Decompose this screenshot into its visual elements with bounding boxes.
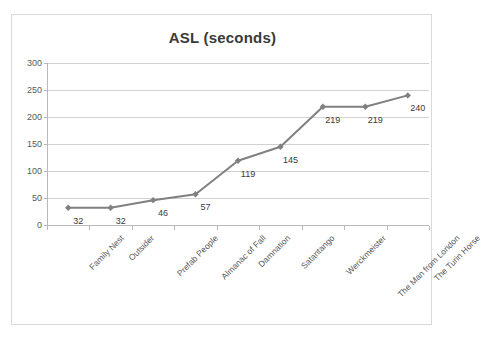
y-axis-tick-mark xyxy=(44,90,48,91)
data-point-label: 219 xyxy=(368,115,383,125)
x-axis-tick-mark xyxy=(132,226,133,230)
x-axis-tick-mark xyxy=(302,226,303,230)
chart-container: ASL (seconds) 050100150200250300 3232465… xyxy=(11,14,432,325)
series-line xyxy=(68,95,408,207)
series-marker xyxy=(362,104,368,110)
y-axis-tick-mark xyxy=(44,171,48,172)
y-axis-tick-mark xyxy=(44,117,48,118)
data-point-label: 145 xyxy=(283,155,298,165)
x-axis-tick-mark xyxy=(429,226,430,230)
data-point-label: 119 xyxy=(241,169,255,179)
data-point-label: 46 xyxy=(158,208,168,218)
series-marker xyxy=(107,205,113,211)
series-marker xyxy=(405,92,411,98)
x-axis-tick-mark xyxy=(217,226,218,230)
x-axis-tick-mark xyxy=(174,226,175,230)
y-axis-tick-mark xyxy=(44,144,48,145)
series-marker xyxy=(65,205,71,211)
x-axis-tick-mark xyxy=(344,226,345,230)
line-series xyxy=(12,15,433,326)
x-axis-tick-mark xyxy=(89,226,90,230)
series-marker xyxy=(150,197,156,203)
y-axis-tick-mark xyxy=(44,198,48,199)
y-axis-tick-mark xyxy=(44,63,48,64)
x-axis-tick-mark xyxy=(259,226,260,230)
data-point-label: 32 xyxy=(73,216,83,226)
x-axis-tick-mark xyxy=(47,226,48,230)
data-point-label: 240 xyxy=(410,103,425,113)
data-point-label: 57 xyxy=(201,202,211,212)
data-point-label: 219 xyxy=(325,115,340,125)
x-axis-tick-mark xyxy=(387,226,388,230)
data-point-label: 32 xyxy=(116,216,126,226)
